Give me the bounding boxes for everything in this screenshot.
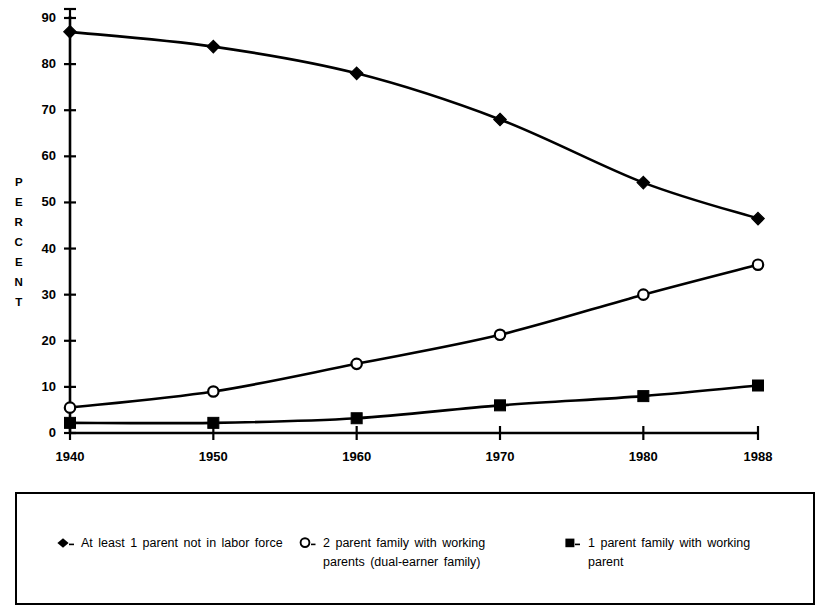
- y-axis-tick-label: 80: [22, 57, 56, 70]
- legend-entry: At least 1 parent not in labor force: [55, 534, 283, 553]
- data-point-marker: [752, 212, 764, 224]
- x-axis-tick-label: 1950: [183, 450, 243, 463]
- data-point-marker: [64, 26, 76, 38]
- chart-canvas: [0, 0, 834, 485]
- series-line: [70, 32, 758, 219]
- legend-label: At least 1 parent not in labor force: [81, 534, 283, 553]
- y-axis-tick-label: 40: [22, 242, 56, 255]
- data-point-marker: [208, 386, 218, 396]
- series-line: [70, 265, 758, 408]
- data-point-marker: [208, 417, 219, 428]
- axes: [64, 9, 758, 440]
- data-series-group: [64, 26, 764, 429]
- data-point-marker: [495, 400, 506, 411]
- y-axis-tick-label: 60: [22, 149, 56, 162]
- data-series: [64, 26, 764, 225]
- legend-entry: 1 parent family with working parent: [562, 534, 750, 572]
- y-axis-title-letter: P: [8, 172, 30, 192]
- legend-entry: 2 parent family with working parents (du…: [297, 534, 485, 572]
- data-point-marker: [638, 391, 649, 402]
- series-line: [70, 386, 758, 424]
- y-axis-title-letter: E: [8, 252, 30, 272]
- data-point-marker: [65, 402, 75, 412]
- x-axis-tick-label: 1940: [40, 450, 100, 463]
- chart-figure: PERCENT 0102030405060708090 194019501960…: [0, 0, 834, 615]
- data-point-marker: [638, 289, 648, 299]
- data-point-marker: [753, 380, 764, 391]
- y-axis-tick-label: 10: [22, 380, 56, 393]
- data-point-marker: [495, 330, 505, 340]
- y-axis-tick-label: 30: [22, 288, 56, 301]
- y-axis-title-letter: R: [8, 212, 30, 232]
- data-point-marker: [753, 259, 763, 269]
- legend-label: 2 parent family with working parents (du…: [323, 534, 485, 572]
- open-circle-icon: [297, 536, 323, 550]
- y-axis-tick-label: 20: [22, 334, 56, 347]
- data-point-marker: [207, 40, 219, 52]
- data-point-marker: [350, 67, 362, 79]
- data-point-marker: [65, 417, 76, 428]
- y-axis-tick-label: 50: [22, 195, 56, 208]
- data-point-marker: [351, 359, 361, 369]
- data-point-marker: [351, 413, 362, 424]
- x-axis-tick-label: 1980: [613, 450, 673, 463]
- data-point-marker: [494, 113, 506, 125]
- data-point-marker: [637, 176, 649, 188]
- filled-square-icon: [562, 536, 588, 550]
- plot-area: PERCENT 0102030405060708090 194019501960…: [0, 0, 834, 485]
- legend-label: 1 parent family with working parent: [588, 534, 750, 572]
- y-axis-tick-label: 0: [22, 426, 56, 439]
- y-axis-tick-label: 90: [22, 11, 56, 24]
- data-series: [65, 380, 764, 428]
- x-axis-tick-label: 1960: [327, 450, 387, 463]
- chart-legend: At least 1 parent not in labor force 2 p…: [15, 492, 815, 605]
- y-axis-tick-label: 70: [22, 103, 56, 116]
- x-axis-tick-label: 1970: [470, 450, 530, 463]
- x-axis-tick-label: 1988: [728, 450, 788, 463]
- data-series: [65, 259, 763, 412]
- filled-diamond-icon: [55, 536, 81, 550]
